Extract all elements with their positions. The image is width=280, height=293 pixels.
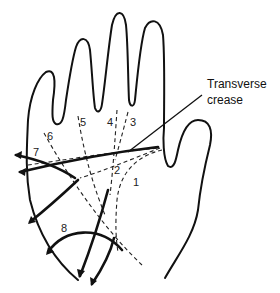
label-5: 5 xyxy=(80,116,86,128)
label-1: 1 xyxy=(133,176,139,188)
label-4: 4 xyxy=(107,116,113,128)
label-6: 6 xyxy=(47,130,53,142)
crease-line-1 xyxy=(116,150,162,252)
arrow-lower-left xyxy=(30,180,78,222)
callout-line-2: crease xyxy=(207,92,267,108)
callout-line-1: Transverse xyxy=(207,76,267,92)
arrow-head xyxy=(18,168,26,176)
arrow-head xyxy=(14,151,22,159)
crease-line-5 xyxy=(78,116,105,215)
arrow-bottom xyxy=(92,238,114,284)
label-7: 7 xyxy=(33,146,39,158)
hand-diagram: 1 2 3 4 5 6 7 8 xyxy=(0,0,280,293)
label-3: 3 xyxy=(130,116,136,128)
transverse-crease-callout: Transverse crease xyxy=(207,76,267,108)
arrow-transverse xyxy=(20,147,158,172)
label-8: 8 xyxy=(61,222,67,234)
label-2: 2 xyxy=(114,164,120,176)
